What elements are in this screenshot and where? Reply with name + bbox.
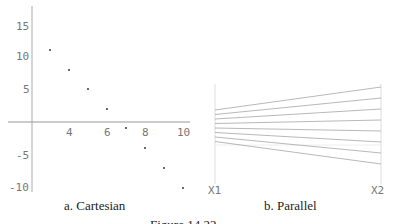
x1-label: X1 <box>208 184 221 197</box>
parallel-caption: b. Parallel <box>264 198 317 213</box>
scatter-points <box>49 49 184 189</box>
cartesian-caption: a. Cartesian <box>64 198 126 213</box>
x-tick: 10 <box>177 126 190 139</box>
x-tick: 6 <box>104 126 111 139</box>
y-tick: 10 <box>16 50 29 63</box>
parallel-lines <box>215 87 381 164</box>
y-tick: 5 <box>23 83 30 96</box>
figure: 15 10 5 -5 -10 4 6 8 10 a. Cartesian <box>0 0 396 224</box>
y-tick: -5 <box>16 149 29 162</box>
x-tick: 4 <box>66 126 73 139</box>
y-tick: -10 <box>9 181 29 194</box>
parallel-plot: X1 X2 b. Parallel <box>208 84 384 213</box>
figure-caption: Figure 14.22 <box>150 217 216 224</box>
x-tick: 8 <box>142 126 149 139</box>
x2-label: X2 <box>371 184 384 197</box>
cartesian-plot: 15 10 5 -5 -10 4 6 8 10 a. Cartesian <box>8 6 190 213</box>
y-tick: 15 <box>16 20 29 33</box>
